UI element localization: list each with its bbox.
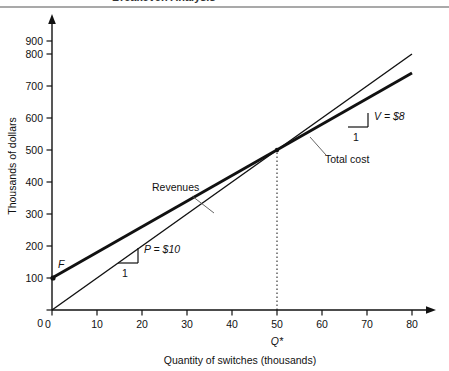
y-tick-300: 300 (25, 208, 43, 220)
x-tick-80: 80 (406, 318, 418, 330)
x-axis-title: Quantity of switches (thousands) (164, 354, 316, 366)
y-tick-700: 700 (25, 80, 43, 92)
x-tick-40: 40 (226, 318, 238, 330)
y-axis-title: Thousands of dollars (6, 117, 18, 214)
total-cost-leader-line (310, 137, 326, 155)
variable-cost-slope-run-label: 1 (353, 131, 359, 143)
y-tick-800: 800 (25, 48, 43, 60)
price-slope-run-label: 1 (122, 267, 128, 279)
y-tick-500: 500 (25, 144, 43, 156)
y-axis (47, 14, 56, 310)
variable-cost-slope-bracket (348, 113, 368, 127)
x-tick-20: 20 (136, 318, 148, 330)
x-axis (52, 306, 436, 315)
variable-cost-slope-label: V = $8 (374, 110, 405, 122)
fixed-cost-marker (50, 275, 55, 280)
x-tick-0: 0 (45, 318, 51, 330)
revenues-leader-line (192, 196, 214, 213)
x-tick-30: 30 (181, 318, 193, 330)
chart-svg: 900 800 700 600 500 400 300 200 100 0 Th… (0, 0, 449, 371)
breakeven-quantity-label: Q* (271, 335, 284, 347)
total-cost-line (52, 73, 412, 278)
y-tick-400: 400 (25, 176, 43, 188)
breakeven-marker (275, 148, 279, 152)
breakeven-chart-figure: Breakeven Analysis 900 800 700 600 500 4… (0, 0, 449, 371)
x-tick-10: 10 (91, 318, 103, 330)
y-tick-0: 0 (37, 317, 43, 329)
fixed-cost-label: F (58, 258, 65, 270)
y-tick-100: 100 (25, 272, 43, 284)
total-cost-series-label: Total cost (325, 153, 369, 165)
y-tick-200: 200 (25, 240, 43, 252)
x-tick-70: 70 (361, 318, 373, 330)
x-tick-60: 60 (316, 318, 328, 330)
x-tick-50: 50 (271, 318, 283, 330)
y-tick-900: 900 (25, 35, 43, 47)
revenues-series-label: Revenues (152, 181, 199, 193)
y-tick-600: 600 (25, 112, 43, 124)
revenues-line (52, 54, 412, 310)
price-slope-label: P = $10 (144, 243, 180, 255)
